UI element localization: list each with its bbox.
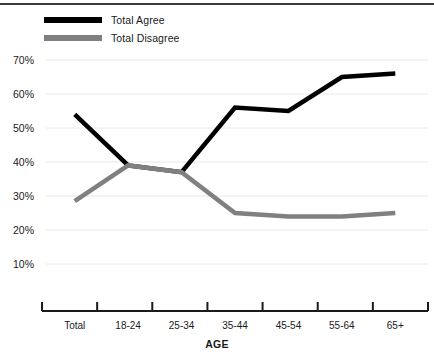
x-tick-label-35-44: 35-44 [222, 320, 248, 331]
y-tick-40: 40% [0, 162, 40, 174]
line-chart-canvas [0, 0, 434, 359]
y-tick-50: 50% [0, 128, 40, 140]
y-tick-60: 60% [0, 94, 40, 106]
y-tick-label-20: 20% [0, 224, 34, 236]
x-tick-label-45-54: 45-54 [276, 320, 302, 331]
plot-area [0, 0, 434, 359]
x-axis-title: AGE [0, 338, 434, 350]
x-tick-label-65+: 65+ [387, 320, 404, 331]
y-tick-label-30: 30% [0, 190, 34, 202]
y-tick-label-70: 70% [0, 54, 34, 66]
y-tick-70: 70% [0, 60, 40, 72]
series-line-total-disagree [75, 165, 396, 216]
y-tick-20: 20% [0, 230, 40, 242]
y-tick-label-50: 50% [0, 122, 34, 134]
x-tick-label-55-64: 55-64 [329, 320, 355, 331]
y-tick-label-10: 10% [0, 258, 34, 270]
x-tick-label-18-24: 18-24 [115, 320, 141, 331]
chart-figure: Total Agree Total Disagree 10%20%30%40%5… [0, 0, 434, 359]
y-tick-30: 30% [0, 196, 40, 208]
y-tick-10: 10% [0, 264, 40, 276]
series-line-total-agree [75, 74, 396, 173]
y-tick-label-60: 60% [0, 88, 34, 100]
x-tick-label-total: Total [64, 320, 85, 331]
y-tick-label-40: 40% [0, 156, 34, 168]
x-tick-label-25-34: 25-34 [169, 320, 195, 331]
